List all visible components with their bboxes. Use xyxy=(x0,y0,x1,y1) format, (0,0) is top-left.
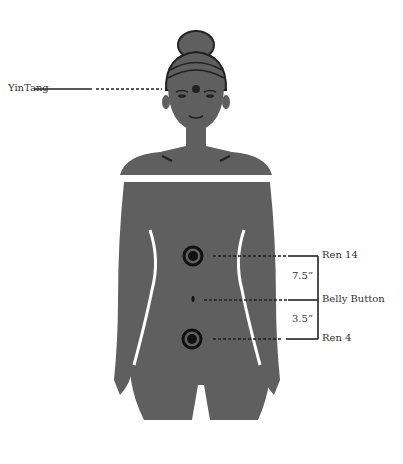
label-belly-button: Belly Button xyxy=(322,293,385,304)
belly-button-marker xyxy=(192,296,195,302)
label-yintang: YinTang xyxy=(8,82,49,93)
head xyxy=(162,31,230,152)
distance-lower: 3.5” xyxy=(292,313,313,324)
label-ren14: Ren 14 xyxy=(322,249,358,260)
yintang-point-marker xyxy=(192,85,200,93)
distance-upper: 7.5” xyxy=(292,270,313,281)
body-diagram xyxy=(0,0,403,464)
shoulders xyxy=(120,146,272,175)
label-ren4: Ren 4 xyxy=(322,332,351,343)
